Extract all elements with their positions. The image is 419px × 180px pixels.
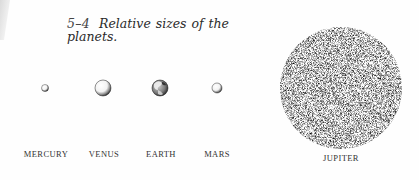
planet-mercury [42,85,49,92]
planet-earth [152,80,168,96]
planet-mars [212,83,222,93]
label-earth: EARTH [146,149,176,159]
label-mercury: MERCURY [24,149,68,159]
label-jupiter: JUPITER [323,153,359,163]
planet-venus [95,80,111,96]
label-mars: MARS [204,149,230,159]
book-page-figure: 5–4Relative sizes of the planets. [0,0,419,180]
planet-jupiter [280,27,403,150]
label-venus: VENUS [89,149,119,159]
